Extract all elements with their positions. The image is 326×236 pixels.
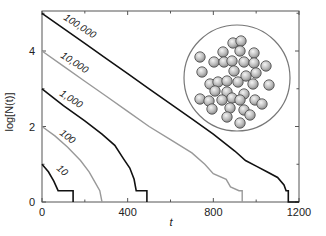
x-tick-label: 400	[118, 206, 136, 218]
x-tick-label: 1200	[287, 206, 311, 218]
label-100000: 100,000	[62, 11, 99, 40]
particle	[210, 86, 220, 96]
particle	[248, 79, 258, 89]
label-10: 10	[55, 162, 71, 178]
particle	[236, 36, 246, 46]
particle	[245, 110, 255, 120]
particle	[222, 112, 232, 122]
particle	[251, 68, 261, 78]
particle	[239, 57, 249, 67]
label-1000: 1,000	[58, 87, 85, 110]
x-axis-title: t	[169, 216, 173, 228]
particle	[207, 104, 217, 114]
particle	[235, 95, 245, 105]
particle	[235, 46, 245, 56]
x-tick-label: 800	[204, 206, 222, 218]
particle	[249, 58, 259, 68]
y-tick-label: 2	[29, 121, 35, 133]
particle	[261, 61, 271, 71]
label-10000: 10,000	[59, 49, 91, 75]
particle	[218, 47, 228, 57]
x-tick-label: 0	[39, 206, 45, 218]
particle	[197, 67, 207, 77]
particle	[264, 80, 274, 90]
y-tick-label: 0	[29, 196, 35, 208]
particle	[257, 99, 267, 109]
particle	[233, 77, 243, 87]
curve-1000	[42, 89, 147, 202]
particle	[235, 118, 245, 128]
y-tick-label: 4	[29, 45, 35, 57]
inset-particle-container	[184, 25, 290, 131]
label-100: 100	[58, 127, 78, 146]
y-axis-title: log[N(t)]	[3, 92, 15, 131]
particle	[229, 66, 239, 76]
chart: 04008001200024 t log[N(t)] 100,000 10,00…	[0, 0, 326, 236]
particle	[222, 76, 232, 86]
particle	[217, 95, 227, 105]
particle	[249, 48, 259, 58]
particle	[227, 56, 237, 66]
particle	[209, 57, 219, 67]
particle	[195, 52, 205, 62]
